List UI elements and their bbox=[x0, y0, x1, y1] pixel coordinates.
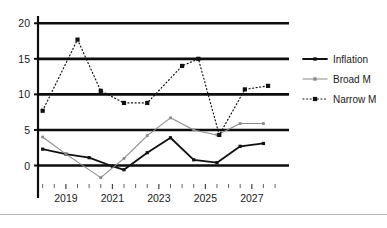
data-point-inflation bbox=[88, 156, 91, 159]
data-point-broad-m bbox=[146, 134, 149, 137]
chart-figure: 0510152020192021202320252027InflationBro… bbox=[0, 0, 387, 228]
series-line-broad-m bbox=[43, 118, 264, 178]
y-tick-label-10: 10 bbox=[18, 88, 30, 100]
data-point-inflation bbox=[41, 148, 44, 151]
y-tick-label-5: 5 bbox=[24, 124, 30, 136]
series-line-narrow-m bbox=[43, 40, 268, 135]
page-divider-rule bbox=[0, 214, 387, 215]
data-point-broad-m bbox=[41, 136, 44, 139]
x-tick-label-2023: 2023 bbox=[147, 192, 171, 204]
legend-swatch-marker-inflation bbox=[313, 57, 316, 60]
data-point-narrow-m bbox=[243, 87, 247, 91]
data-point-broad-m bbox=[192, 129, 195, 132]
data-point-broad-m bbox=[262, 122, 265, 125]
data-point-inflation bbox=[122, 168, 125, 171]
data-point-narrow-m bbox=[145, 101, 149, 105]
data-point-narrow-m bbox=[41, 109, 45, 113]
data-point-narrow-m bbox=[180, 64, 184, 68]
data-point-inflation bbox=[169, 136, 172, 139]
data-point-broad-m bbox=[239, 122, 242, 125]
data-point-inflation bbox=[192, 158, 195, 161]
data-point-inflation bbox=[215, 161, 218, 164]
data-point-inflation bbox=[239, 145, 242, 148]
data-point-broad-m bbox=[169, 116, 172, 119]
data-point-inflation bbox=[146, 151, 149, 154]
legend-swatch-marker-narrow-m bbox=[313, 97, 317, 101]
y-tick-label-15: 15 bbox=[18, 53, 30, 65]
x-tick-label-2025: 2025 bbox=[194, 192, 218, 204]
data-point-narrow-m bbox=[196, 57, 200, 61]
x-tick-label-2021: 2021 bbox=[101, 192, 125, 204]
legend-label-broad-m: Broad M bbox=[333, 74, 371, 85]
line-chart: 0510152020192021202320252027InflationBro… bbox=[0, 0, 387, 228]
y-tick-label-0: 0 bbox=[24, 160, 30, 172]
legend-label-inflation: Inflation bbox=[333, 54, 368, 65]
data-point-narrow-m bbox=[99, 89, 103, 93]
y-tick-label-20: 20 bbox=[18, 17, 30, 29]
data-point-inflation bbox=[262, 142, 265, 145]
legend-swatch-marker-broad-m bbox=[313, 77, 316, 80]
data-point-broad-m bbox=[99, 176, 102, 179]
data-point-broad-m bbox=[64, 153, 67, 156]
data-point-narrow-m bbox=[122, 101, 126, 105]
legend-label-narrow-m: Narrow M bbox=[333, 94, 376, 105]
data-point-narrow-m bbox=[266, 84, 270, 88]
x-tick-label-2019: 2019 bbox=[54, 192, 78, 204]
data-point-narrow-m bbox=[75, 38, 79, 42]
x-tick-label-2027: 2027 bbox=[240, 192, 264, 204]
data-point-broad-m bbox=[123, 157, 126, 160]
data-point-narrow-m bbox=[217, 133, 221, 137]
